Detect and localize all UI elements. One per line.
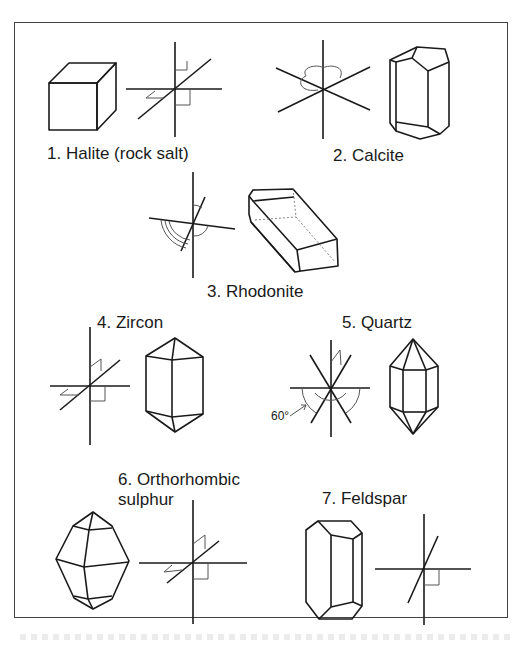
rhodonite-label: 3. Rhodonite (207, 282, 303, 302)
halite-label: 1. Halite (rock salt) (47, 144, 189, 164)
zircon-crystal-icon (146, 338, 203, 432)
calcite-crystal-icon (390, 47, 449, 139)
sulphur-axes-icon (139, 500, 247, 624)
calcite-axes-icon (276, 40, 370, 139)
quartz-axes-icon (290, 340, 370, 437)
quartz-label: 5. Quartz (342, 313, 412, 333)
crystal-diagrams (0, 0, 528, 647)
quartz-angle-label: 60° (271, 409, 289, 423)
halite-axes-icon (126, 42, 222, 137)
bleed-through-text (20, 634, 510, 640)
halite-cube-icon (49, 63, 116, 130)
zircon-label: 4. Zircon (97, 313, 163, 333)
zircon-axes-icon (50, 327, 130, 445)
feldspar-label: 7. Feldspar (322, 489, 407, 509)
feldspar-crystal-icon (306, 521, 362, 619)
sulphur-label-line1: 6. Orthorhombic (118, 470, 240, 490)
quartz-crystal-icon (390, 339, 438, 434)
feldspar-axes-icon (375, 514, 471, 625)
sulphur-crystal-icon (56, 512, 129, 609)
calcite-label: 2. Calcite (333, 146, 404, 166)
rhodonite-axes-icon (149, 172, 235, 278)
sulphur-label-line2: sulphur (118, 490, 174, 510)
rhodonite-crystal-icon (249, 189, 338, 272)
